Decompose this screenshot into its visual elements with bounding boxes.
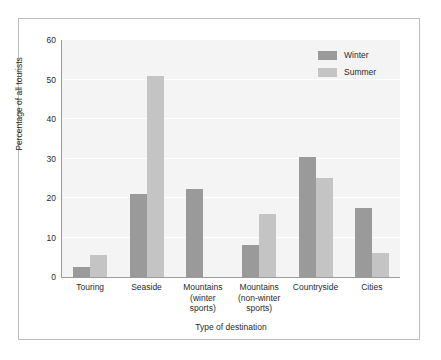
x-axis-line	[61, 277, 400, 278]
gridline	[62, 197, 400, 198]
gridline	[62, 158, 400, 159]
y-tick-label: 30	[30, 155, 56, 164]
legend-swatch	[318, 68, 337, 77]
y-tick-label: 50	[30, 76, 56, 85]
y-tick-label: 10	[30, 234, 56, 243]
bar-summer-0	[90, 255, 107, 277]
legend-label: Winter	[344, 51, 369, 60]
bar-summer-5	[372, 253, 389, 277]
bar-summer-1	[147, 76, 164, 277]
bar-winter-5	[355, 208, 372, 277]
x-tick-label: Countryside	[287, 282, 343, 293]
bar-summer-4	[316, 178, 333, 277]
x-tick-label: Seaside	[118, 282, 174, 293]
gridline	[62, 39, 400, 40]
y-axis-ticks: 0102030405060	[28, 40, 56, 277]
gridline	[62, 118, 400, 119]
y-tick-label: 20	[30, 194, 56, 203]
bar-winter-1	[130, 194, 147, 277]
legend-label: Summer	[344, 68, 376, 77]
legend-item: Summer	[318, 65, 402, 79]
legend-item: Winter	[318, 48, 402, 62]
x-tick-label: Mountains (winter sports)	[175, 282, 231, 314]
x-axis-title: Type of destination	[62, 322, 400, 332]
chart-figure: 0102030405060 Percentage of all tourists…	[0, 0, 441, 360]
x-tick-label: Cities	[344, 282, 400, 293]
bar-summer-3	[259, 214, 276, 277]
y-tick-label: 0	[30, 273, 56, 282]
bar-winter-2	[186, 189, 203, 277]
y-axis-title: Percentage of all tourists	[14, 29, 24, 179]
gridline	[62, 237, 400, 238]
x-tick-label: Mountains (non-winter sports)	[231, 282, 287, 314]
legend-swatch	[318, 51, 337, 60]
chart-legend: WinterSummer	[318, 48, 402, 82]
x-axis-tick-labels: TouringSeasideMountains (winter sports)M…	[62, 282, 400, 318]
bar-winter-0	[73, 267, 90, 277]
y-tick-label: 60	[30, 36, 56, 45]
y-tick-label: 40	[30, 115, 56, 124]
bar-winter-4	[299, 157, 316, 277]
bar-winter-3	[242, 245, 259, 277]
x-tick-label: Touring	[62, 282, 118, 293]
